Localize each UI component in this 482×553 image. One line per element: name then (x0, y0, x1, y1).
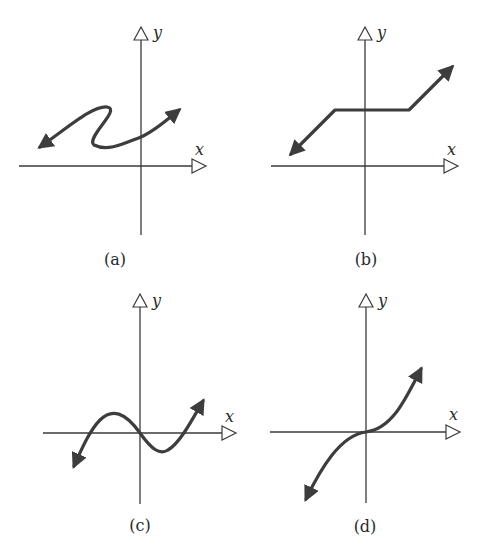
x-axis-label: x (449, 405, 458, 424)
graphs-figure: y x (a) y x (b) y x (c) (0, 0, 482, 553)
panel-a: y x (a) (19, 23, 206, 269)
curve-d (306, 369, 421, 499)
x-axis-arrow-icon (446, 425, 460, 439)
y-axis (359, 294, 373, 503)
curve-a (40, 107, 179, 148)
y-axis-label: y (152, 23, 163, 42)
y-axis (133, 294, 147, 504)
panel-label-a: (a) (104, 250, 126, 269)
panel-label-d: (d) (354, 517, 377, 536)
x-axis-arrow-icon (192, 159, 206, 173)
x-axis-arrow-icon (444, 159, 458, 173)
y-axis-arrow-icon (358, 27, 372, 40)
x-axis-label: x (195, 140, 204, 159)
y-axis-arrow-icon (359, 294, 373, 307)
y-axis (134, 27, 148, 235)
y-axis-label: y (151, 291, 162, 310)
x-axis-label: x (225, 407, 234, 426)
x-axis-arrow-icon (222, 426, 236, 440)
panel-d: y x (d) (270, 291, 460, 536)
y-axis-arrow-icon (134, 27, 148, 40)
y-axis-label: y (376, 23, 387, 42)
panel-label-c: (c) (129, 516, 150, 535)
panel-c: y x (c) (43, 291, 236, 535)
panel-label-b: (b) (355, 250, 378, 269)
y-axis-arrow-icon (133, 294, 147, 307)
y-axis-label: y (377, 291, 388, 310)
curve-b (291, 67, 452, 154)
x-axis-label: x (447, 140, 456, 159)
x-axis (19, 159, 206, 173)
y-axis (358, 27, 372, 235)
panel-b: y x (b) (271, 23, 458, 269)
